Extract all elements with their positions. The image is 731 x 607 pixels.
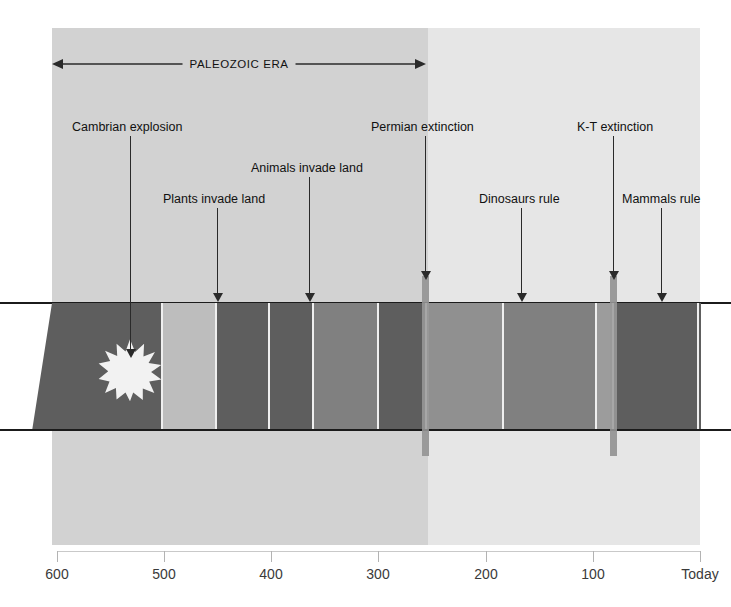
segment-7 [426,303,503,431]
dinosaurs-rule-label: Dinosaurs rule [479,192,560,206]
kt-extinction-bar [610,276,617,456]
cambrian-explosion-leader-line [130,136,131,350]
cambrian-explosion-arrowhead-icon [126,349,136,358]
axis-tick-label-300: 300 [366,566,389,582]
segment-10 [613,303,701,431]
geologic-timeline-figure: PALEOZOIC ERA Cambrian explosionPlants i… [0,0,731,607]
dinosaurs-rule-arrowhead-icon [517,293,527,302]
permian-extinction-label: Permian extinction [371,120,474,134]
mammals-rule-arrowhead-icon [657,293,667,302]
axis-tick-label-400: 400 [259,566,282,582]
band-separator-2 [268,303,270,431]
axis-tick-label-100: 100 [581,566,604,582]
paleozoic-era-label: PALEOZOIC ERA [183,58,296,70]
segment-5 [313,303,378,431]
band-separator-1 [215,303,217,431]
permian-extinction-bar [422,276,429,456]
axis-tick-300 [378,551,379,562]
axis-tick-label-200: 200 [474,566,497,582]
kt-extinction-leader-line [613,136,614,272]
axis-tick-label-500: 500 [152,566,175,582]
axis-tick-100 [593,551,594,562]
plants-invade-land-label: Plants invade land [163,192,265,206]
paleozoic-background-panel [52,28,428,545]
segment-4 [269,303,313,431]
paleozoic-era-span: PALEOZOIC ERA [52,52,426,76]
cambrian-explosion-label: Cambrian explosion [72,120,182,134]
band-separator-9 [697,303,699,431]
axis-tick-500 [164,551,165,562]
kt-extinction-label: K-T extinction [577,120,653,134]
axis-tick-today [700,551,701,562]
axis-tick-400 [271,551,272,562]
axis-tick-label-600: 600 [45,566,68,582]
segment-8 [503,303,596,431]
mammals-rule-label: Mammals rule [622,192,701,206]
animals-invade-land-leader-line [309,177,310,294]
animals-invade-land-label: Animals invade land [251,161,363,175]
axis-tick-600 [57,551,58,562]
segment-3 [216,303,269,431]
dinosaurs-rule-leader-line [521,208,522,294]
band-bottom-rule [0,429,731,431]
plants-invade-land-arrowhead-icon [213,293,223,302]
plants-invade-land-leader-line [217,208,218,294]
kt-extinction-arrowhead-icon [609,271,619,280]
axis-tick-200 [486,551,487,562]
band-separator-3 [312,303,314,431]
permian-extinction-arrowhead-icon [421,271,431,280]
mesozoic-cenozoic-background-panel [428,28,700,545]
permian-extinction-leader-line [425,136,426,272]
segment-2 [162,303,216,431]
segment-6 [378,303,426,431]
band-separator-7 [595,303,597,431]
band-separator-6 [502,303,504,431]
animals-invade-land-arrowhead-icon [305,293,315,302]
mammals-rule-leader-line [661,208,662,294]
axis-tick-label-today: Today [681,566,718,582]
band-separator-4 [377,303,379,431]
